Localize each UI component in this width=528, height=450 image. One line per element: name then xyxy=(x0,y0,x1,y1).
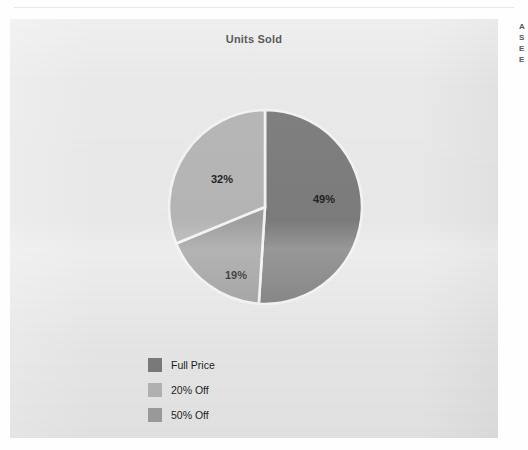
page-top-rule xyxy=(14,7,514,8)
margin-note-line-4: E xyxy=(519,54,528,65)
margin-note-line-1: A xyxy=(519,21,528,32)
legend-label-twenty-off: 20% Off xyxy=(171,384,209,396)
legend-label-full-price: Full Price xyxy=(171,359,215,371)
legend-swatch-full-price xyxy=(148,358,162,372)
pie-label-fifty-off: 19% xyxy=(225,269,247,281)
margin-note-line-3: E xyxy=(519,43,528,54)
chart-legend: Full Price 20% Off 50% Off xyxy=(148,352,348,427)
pie-label-full-price: 49% xyxy=(313,193,335,205)
legend-swatch-twenty-off xyxy=(148,383,162,397)
margin-note-clipped: A S E E xyxy=(519,21,528,67)
legend-label-fifty-off: 50% Off xyxy=(171,409,209,421)
pie-slice-full-price[interactable] xyxy=(259,110,362,304)
chart-panel: Units Sold 49% 32% 19% Full Price xyxy=(10,19,498,438)
legend-item-fifty-off[interactable]: 50% Off xyxy=(148,402,348,427)
legend-item-twenty-off[interactable]: 20% Off xyxy=(148,377,348,402)
pie-label-twenty-off: 32% xyxy=(211,173,233,185)
legend-item-full-price[interactable]: Full Price xyxy=(148,352,348,377)
margin-note-line-2: S xyxy=(519,32,528,43)
legend-swatch-fifty-off xyxy=(148,408,162,422)
figure-page: Units Sold 49% 32% 19% Full Price xyxy=(0,0,528,450)
